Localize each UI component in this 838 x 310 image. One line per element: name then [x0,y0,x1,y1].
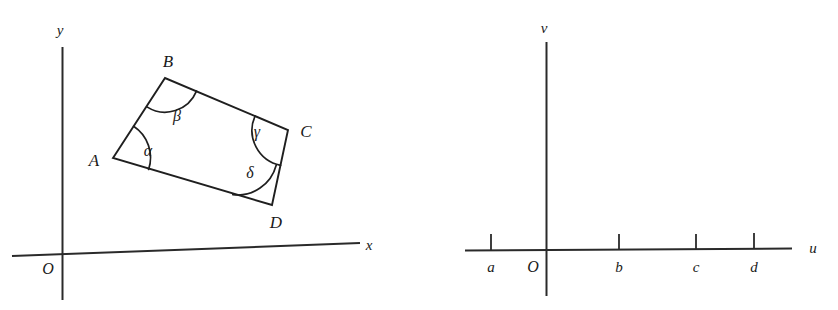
angle-label-beta: β [172,107,181,125]
angle-label-gamma: γ [254,123,261,141]
v-axis-label: v [541,20,548,36]
tick-label-d: d [750,259,758,275]
tick-label-a: a [487,259,495,275]
tick-label-b: b [615,259,623,275]
vertex-label-d: D [269,213,283,232]
vertex-label-a: A [88,151,100,170]
angle-label-delta: δ [246,164,254,181]
origin-label-left: O [42,260,54,277]
y-axis-label: y [55,22,64,38]
angle-label-alpha: α [144,142,153,159]
x-axis-label: x [365,237,373,253]
vertex-label-b: B [163,52,174,71]
u-axis-label: u [809,240,817,256]
angle-arc-delta [233,165,276,195]
x-axis-line [12,243,360,256]
right-diagram: a b c d v u O [419,0,838,310]
figure-canvas: A B C D α β γ δ y x O a b c d v u O [0,0,838,310]
tick-label-c: c [693,259,700,275]
origin-label-right: O [527,258,539,275]
vertex-label-c: C [300,122,312,141]
left-diagram: A B C D α β γ δ y x O [0,0,419,310]
u-axis-line [465,249,792,251]
